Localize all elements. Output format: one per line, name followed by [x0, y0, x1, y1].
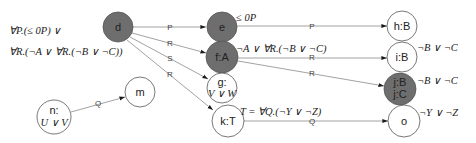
annotation-o: ¬Y ∨ ¬Z — [419, 107, 458, 118]
edge-label-d-g: S — [167, 54, 172, 63]
node-e: e — [207, 12, 237, 42]
node-h-label: h:B — [394, 20, 411, 32]
node-n-line2: U ∨ V — [40, 117, 69, 128]
node-f-label: f:A — [215, 51, 229, 63]
edge-f-j: R — [238, 61, 384, 86]
edge-label-n-m: Q — [95, 99, 101, 108]
node-j: j:B j:C — [384, 73, 416, 105]
annotation-i: ¬B ∨ ¬C — [417, 42, 459, 53]
edge-k-o: Q — [244, 117, 388, 126]
annotation-j: ¬B ∨ ¬C — [417, 75, 459, 86]
node-n-line1: n: — [49, 104, 58, 116]
edge-label-e-h: P — [309, 22, 314, 31]
tableau-diagram: P R S R P R R Q Q d e f:A — [0, 0, 476, 143]
node-g-line2: V ∨ W — [208, 88, 237, 99]
node-f: f:A — [206, 41, 238, 73]
edge-d-f: R — [132, 33, 206, 53]
edge-label-f-i: R — [309, 53, 315, 62]
node-h: h:B — [387, 11, 417, 41]
annotation-f: ¬A ∨ ∀R.(¬B ∨ ¬C) — [236, 43, 327, 55]
node-g-line1: g: — [217, 76, 226, 88]
edge-f-i: R — [238, 53, 387, 62]
edge-e-h: P — [237, 22, 387, 31]
edge-label-d-k: R — [167, 70, 173, 79]
node-g: g: V ∨ W — [207, 73, 237, 103]
node-m: m — [125, 77, 155, 107]
edge-n-m: Q — [71, 97, 125, 112]
annotation-d-line2: ∀R.(¬A ∨ ∀R.(¬B ∨ ¬C)) — [9, 46, 123, 58]
node-d-label: d — [115, 21, 121, 33]
node-n: n: U ∨ V — [37, 100, 71, 134]
edge-label-d-e: P — [167, 23, 172, 32]
node-i: i:B — [387, 42, 417, 72]
edge-label-d-f: R — [167, 39, 173, 48]
node-o: o — [388, 105, 420, 137]
node-i-label: i:B — [396, 51, 409, 63]
node-j-line2: j:C — [392, 88, 407, 100]
node-k-label: k:T — [220, 115, 236, 127]
edge-label-f-j: R — [309, 69, 315, 78]
annotation-e: ≤ 0P — [236, 12, 257, 23]
node-m-label: m — [135, 86, 144, 98]
annotation-d-line1: ∀P.(≤ 0P) ∨ — [9, 25, 61, 37]
node-d: d — [103, 12, 133, 42]
node-j-line1: j:B — [393, 76, 407, 88]
node-o-label: o — [401, 115, 407, 127]
edge-d-e: P — [133, 23, 206, 32]
node-e-label: e — [219, 21, 225, 33]
annotation-k: T = ∀Q.(¬Y ∨ ¬Z) — [240, 106, 322, 118]
edge-label-k-o: Q — [309, 117, 315, 126]
